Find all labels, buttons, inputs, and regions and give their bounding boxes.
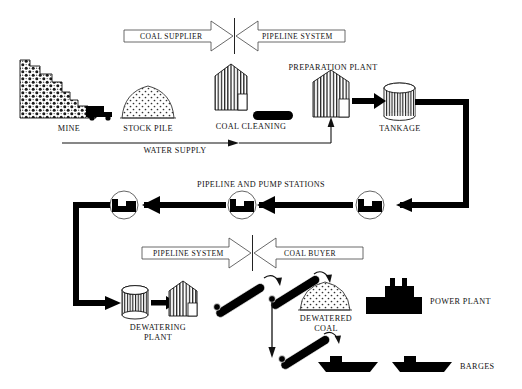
- label-power-plant: POWER PLANT: [430, 297, 514, 307]
- label-preparation-plant: PREPARATION PLANT: [272, 63, 394, 73]
- label-barges: BARGES: [460, 362, 516, 372]
- pump-station-icon-3: [356, 191, 384, 219]
- bottom-banner-left-label: PIPELINE SYSTEM: [153, 249, 224, 258]
- coal-dome-icon-stockpile: [120, 86, 176, 118]
- label-stock-pile: STOCK PILE: [112, 124, 184, 134]
- tank-cylinder-icon: [384, 83, 415, 120]
- pump-station-icon-1: [110, 191, 138, 219]
- label-tankage: TANKAGE: [368, 124, 432, 134]
- label-mine: MINE: [44, 124, 94, 134]
- label-dewatered-coal-line1: DEWATERED: [285, 314, 367, 324]
- branch-arrow-to-barge-conveyor: [268, 302, 275, 358]
- pump-station-icon-2: [228, 191, 256, 219]
- mine-mountain-icon: [20, 60, 96, 118]
- conveyor-belt-1-icon: [214, 282, 267, 319]
- preparation-plant-icon: [313, 70, 349, 117]
- label-pipeline-and-pump-stations: PIPELINE AND PUMP STATIONS: [180, 180, 342, 190]
- top-banner-left-label: COAL SUPPLIER: [140, 32, 203, 41]
- label-dewatering-plant-line1: DEWATERING: [113, 323, 203, 333]
- barge-ship-icon-2: [392, 356, 452, 372]
- top-banner-right-label: PIPELINE SYSTEM: [262, 32, 333, 41]
- label-dewatering-plant-line2: PLANT: [113, 333, 203, 343]
- conveyor-oval-icon: [253, 111, 293, 120]
- process-flow-diagram: COAL SUPPLIER PIPELINE SYSTEM PIPELINE S…: [0, 0, 522, 389]
- haul-truck-icon: [86, 106, 112, 121]
- pipeline-pumps-to-dewatering: [76, 205, 121, 310]
- coal-cleaning-building-icon: [215, 64, 247, 110]
- arrow-prep-to-tank: [352, 93, 386, 109]
- barge-ship-icon-1: [318, 356, 378, 372]
- label-water-supply: WATER SUPPLY: [130, 146, 220, 156]
- label-coal-cleaning: COAL CLEANING: [203, 122, 299, 132]
- power-plant-icon: [366, 278, 422, 314]
- dewatering-tank-icon: [122, 286, 148, 319]
- bottom-banner-right-label: COAL BUYER: [284, 249, 336, 258]
- label-dewatered-coal-line2: COAL: [285, 324, 367, 334]
- diagram-graphics: [0, 0, 522, 389]
- dewatering-building-icon: [169, 281, 197, 316]
